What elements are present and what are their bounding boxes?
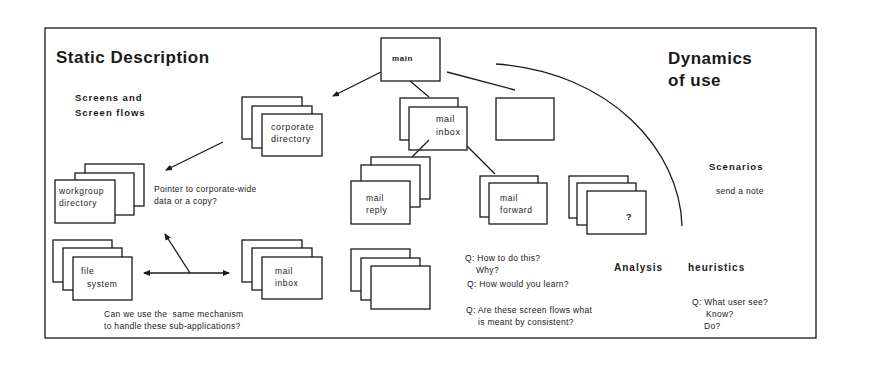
note-pointer-2: data or a copy? bbox=[154, 196, 217, 207]
screen-main-label: main bbox=[392, 54, 413, 64]
question-do: Do? bbox=[704, 321, 721, 332]
unknown-screen-label: ? bbox=[626, 212, 632, 223]
label-analysis: Analysis bbox=[614, 262, 663, 275]
question-learn: Q: How would you learn? bbox=[467, 279, 569, 290]
corporate-label-2: directory bbox=[271, 134, 311, 145]
label-scenarios: Scenarios bbox=[709, 161, 763, 173]
mail-reply-label-2: reply bbox=[366, 205, 387, 216]
mail-inbox-b-label-2: inbox bbox=[275, 278, 298, 289]
mail-forward-label-2: forward bbox=[500, 205, 533, 216]
screen-unknown bbox=[587, 191, 646, 234]
title-dynamics: Dynamics bbox=[668, 48, 752, 69]
label-screens: Screens and bbox=[75, 92, 143, 104]
line-main-to-empty bbox=[447, 72, 515, 90]
corporate-label-1: corporate bbox=[271, 122, 314, 133]
screen-empty-bottom bbox=[371, 266, 430, 309]
question-consistent-2: is meant by consistent? bbox=[478, 317, 574, 328]
arrow-up-pointer bbox=[165, 234, 190, 273]
workgroup-label-1: workgroup bbox=[59, 186, 104, 197]
line-main-to-inbox bbox=[410, 81, 429, 97]
file-system-label-2: system bbox=[87, 279, 118, 290]
mail-inbox-label-2: inbox bbox=[436, 127, 461, 138]
note-mechanism-2: to handle these sub-applications? bbox=[104, 321, 241, 332]
scenario-send-note: send a note bbox=[716, 186, 764, 197]
question-user-see: Q: What user see? bbox=[692, 297, 768, 308]
title-of-use: of use bbox=[668, 70, 721, 91]
question-know: Know? bbox=[706, 309, 734, 320]
arrow-corporate-to-workgroup bbox=[166, 142, 223, 170]
screen-mail-forward bbox=[489, 183, 547, 224]
title-static-description: Static Description bbox=[56, 47, 210, 68]
note-pointer-1: Pointer to corporate-wide bbox=[154, 184, 256, 195]
question-consistent-1: Q: Are these screen flows what bbox=[466, 305, 592, 316]
question-why: Why? bbox=[476, 265, 499, 276]
workgroup-label-2: directory bbox=[59, 198, 97, 209]
mail-inbox-b-label-1: mail bbox=[275, 266, 293, 277]
mail-reply-label-1: mail bbox=[366, 193, 384, 204]
mail-inbox-label-1: mail bbox=[436, 114, 455, 125]
question-how: Q: How to do this? bbox=[465, 253, 540, 264]
note-mechanism-1: Can we use the same mechanism bbox=[104, 309, 243, 320]
label-heuristics: heuristics bbox=[688, 262, 745, 275]
arrow-main-to-corporate bbox=[333, 72, 381, 96]
line-inbox-to-forward bbox=[467, 146, 495, 174]
label-screen-flows: Screen flows bbox=[75, 107, 146, 119]
file-system-label-1: file bbox=[81, 266, 94, 277]
screen-empty bbox=[496, 98, 554, 140]
mail-forward-label-1: mail bbox=[500, 193, 518, 204]
